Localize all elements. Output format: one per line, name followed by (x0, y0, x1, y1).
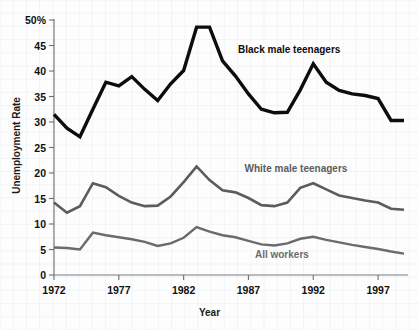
x-axis-tick-label: 1982 (162, 284, 206, 296)
y-axis-tick-label: 30 (12, 116, 46, 128)
y-axis-tick-label: 35 (12, 91, 46, 103)
x-axis-tick-label: 1972 (32, 284, 76, 296)
x-axis-tick-label: 1992 (291, 284, 335, 296)
y-axis-tick-label: 0 (12, 269, 46, 281)
x-axis-title: Year (0, 307, 419, 318)
y-axis-tick-label: 10 (12, 218, 46, 230)
series-label-0: Black male teenagers (238, 44, 340, 55)
x-axis-tick-label: 1997 (356, 284, 400, 296)
y-axis-tick-label: 5 (12, 244, 46, 256)
line-chart-plot (0, 0, 419, 330)
x-axis-tick-label: 1987 (226, 284, 270, 296)
y-axis-tick-label: 20 (12, 167, 46, 179)
y-axis-tick-label: 40 (12, 65, 46, 77)
y-axis-tick-label: 45 (12, 40, 46, 52)
y-axis-tick-label: 50% (12, 14, 46, 26)
x-axis-tick-label: 1977 (97, 284, 141, 296)
series-label-2: All workers (255, 249, 309, 260)
y-axis-tick-label: 15 (12, 193, 46, 205)
series-label-1: White male teenagers (245, 163, 348, 174)
chart-container: Unemployment Rate Year 05101520253035404… (0, 0, 419, 330)
y-axis-tick-label: 25 (12, 142, 46, 154)
